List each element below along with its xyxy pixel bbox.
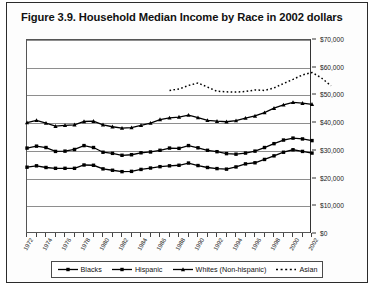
- series-line: [170, 72, 332, 92]
- series-marker: [139, 168, 142, 171]
- x-tick-label: 1984: [136, 237, 148, 252]
- legend-swatch-dotted: [275, 265, 297, 274]
- series-marker: [206, 166, 209, 169]
- x-tick-label: 1976: [60, 237, 72, 252]
- y-tick-label: $20,000: [320, 174, 344, 181]
- series-marker: [168, 164, 171, 167]
- y-tick-label: $40,000: [320, 119, 344, 126]
- series-marker: [120, 170, 123, 173]
- series-marker: [44, 146, 47, 149]
- y-tick-label: $30,000: [320, 146, 344, 153]
- series-marker: [82, 163, 85, 166]
- series-marker: [54, 167, 57, 170]
- series-marker: [291, 136, 294, 139]
- series-marker: [215, 150, 218, 153]
- y-tick-mark: [312, 149, 316, 150]
- series-marker: [54, 150, 57, 153]
- series-marker: [291, 148, 294, 151]
- series-marker: [149, 166, 152, 169]
- x-tick-label: 1994: [231, 237, 243, 252]
- series-marker: [44, 166, 47, 169]
- series-marker: [196, 164, 199, 167]
- x-tick-label: 1996: [250, 237, 262, 252]
- series-marker: [234, 152, 237, 155]
- series-marker: [196, 146, 199, 149]
- x-tick-label: 1992: [212, 237, 224, 252]
- x-tick-label: 1972: [22, 237, 34, 252]
- y-tick-label: $10,000: [320, 202, 344, 209]
- legend-item-asian[interactable]: Asian: [275, 265, 317, 274]
- x-tick-label: 1974: [41, 237, 53, 252]
- legend-swatch-solid: [111, 265, 133, 274]
- series-line: [27, 102, 312, 128]
- series-marker: [301, 137, 304, 140]
- legend-item-hispanic[interactable]: Hispanic: [111, 265, 163, 274]
- series-marker: [282, 138, 285, 141]
- x-tick-label: 2000: [288, 237, 300, 252]
- legend-label: Whites (Non-hispanic): [196, 265, 267, 274]
- y-tick-label: $0: [320, 230, 327, 237]
- chart-legend: BlacksHispanicWhites (Non-hispanic)Asian: [51, 261, 323, 278]
- series-marker: [35, 144, 38, 147]
- y-tick-mark: [312, 177, 316, 178]
- legend-swatch-solid: [172, 265, 194, 274]
- x-tick-label: 1988: [174, 237, 186, 252]
- figure-container: Figure 3.9. Household Median Income by R…: [6, 2, 368, 283]
- series-marker: [272, 142, 275, 145]
- legend-label: Hispanic: [135, 265, 163, 274]
- x-tick-label: 1978: [79, 237, 91, 252]
- series-marker: [35, 164, 38, 167]
- series-marker: [139, 151, 142, 154]
- series-marker: [158, 165, 161, 168]
- series-marker: [168, 146, 171, 149]
- series-marker: [101, 151, 104, 154]
- series-marker: [130, 170, 133, 173]
- series-marker: [158, 149, 161, 152]
- series-marker: [272, 154, 275, 157]
- legend-item-blacks[interactable]: Blacks: [57, 265, 102, 274]
- series-marker: [25, 166, 28, 169]
- y-tick-label: $60,000: [320, 63, 344, 70]
- series-marker: [82, 144, 85, 147]
- legend-label: Asian: [299, 265, 317, 274]
- x-tick-label: 1990: [193, 237, 205, 252]
- x-axis-labels: 1972197419761978198019821984198619881990…: [26, 237, 326, 263]
- x-tick-label: 2002: [307, 237, 319, 252]
- legend-item-whites-non-hispanic[interactable]: Whites (Non-hispanic): [172, 265, 267, 274]
- y-tick-mark: [312, 66, 316, 67]
- y-axis: $0$10,000$20,000$30,000$40,000$50,000$60…: [312, 39, 370, 233]
- series-marker: [120, 154, 123, 157]
- series-marker: [73, 148, 76, 151]
- y-tick-mark: [312, 233, 316, 234]
- series-marker: [215, 167, 218, 170]
- series-marker: [92, 164, 95, 167]
- x-tick-label: 1980: [98, 237, 110, 252]
- series-marker: [225, 167, 228, 170]
- series-marker: [244, 151, 247, 154]
- y-tick-mark: [312, 94, 316, 95]
- plot-area: [26, 39, 311, 233]
- y-tick-label: $70,000: [320, 36, 344, 43]
- series-marker: [234, 165, 237, 168]
- series-marker: [63, 149, 66, 152]
- series-marker: [187, 144, 190, 147]
- series-marker: [253, 149, 256, 152]
- series-marker: [187, 161, 190, 164]
- series-marker: [101, 167, 104, 170]
- series-marker: [301, 150, 304, 153]
- legend-label: Blacks: [81, 265, 102, 274]
- series-marker: [63, 167, 66, 170]
- series-marker: [253, 161, 256, 164]
- y-tick-mark: [312, 122, 316, 123]
- y-tick-mark: [312, 205, 316, 206]
- series-marker: [25, 146, 28, 149]
- figure-title: Figure 3.9. Household Median Income by R…: [21, 11, 343, 23]
- series-marker: [263, 146, 266, 149]
- series-marker: [73, 167, 76, 170]
- series-marker: [177, 164, 180, 167]
- series-marker: [111, 152, 114, 155]
- x-tick-label: 1982: [117, 237, 129, 252]
- x-tick-label: 1998: [269, 237, 281, 252]
- series-marker: [206, 149, 209, 152]
- series-marker: [130, 153, 133, 156]
